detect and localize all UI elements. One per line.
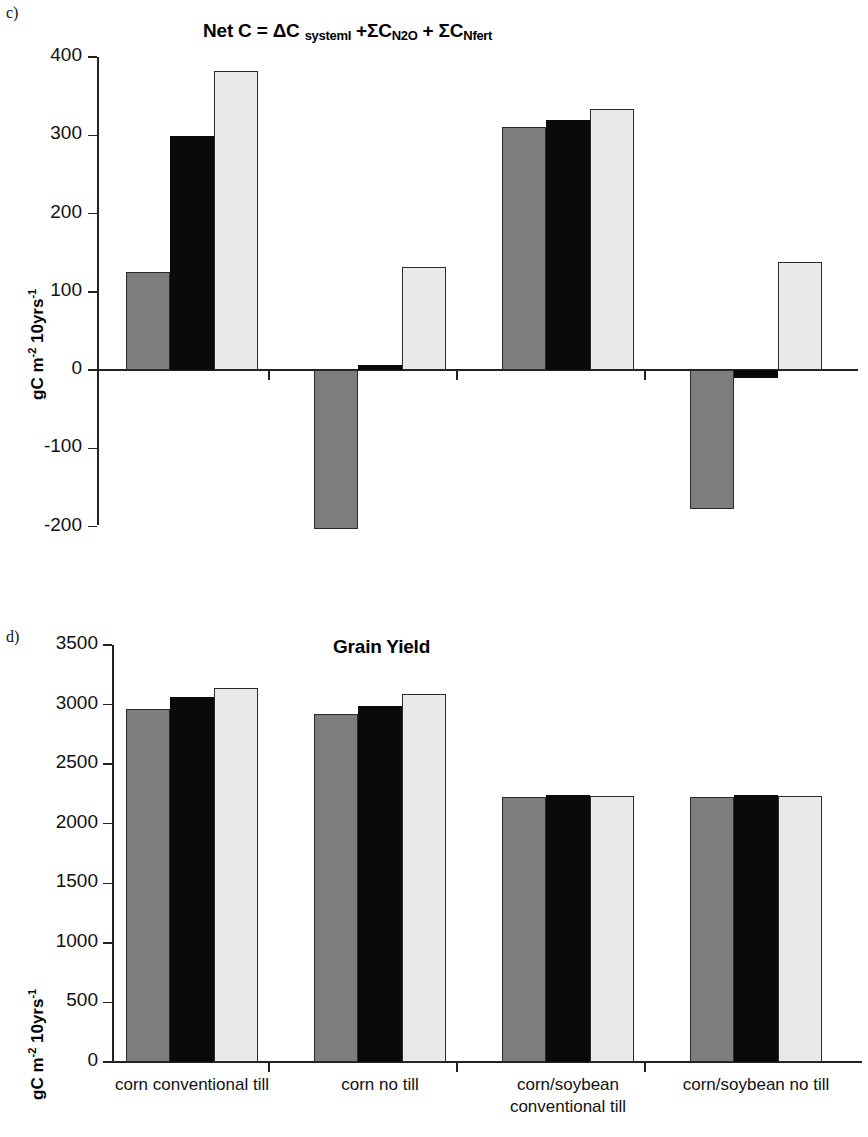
y-tick-label-d-0: 0: [10, 1049, 98, 1071]
x-axis-label-1: corn conventional till: [82, 1074, 302, 1096]
y-tick-label-d-3500: 3500: [10, 632, 98, 654]
y-tick-d-3500: [103, 644, 112, 646]
y-tick-d-500: [103, 1002, 112, 1004]
y-tick-d-0: [103, 1061, 112, 1063]
bar-c-g2-s3: [402, 267, 446, 370]
y-tick-label-c-200: 200: [2, 201, 82, 223]
y-tick-d-1500: [103, 883, 112, 885]
x-tick-d-0: [268, 1062, 270, 1072]
bar-d-g4-s1: [690, 797, 734, 1062]
panel-c-net-carbon: c) Net C = ΔCsystemI +ΣCN2O + ΣCNfert gC…: [0, 0, 868, 565]
y-tick-c-400: [88, 56, 97, 58]
y-tick-label-c--100: -100: [2, 435, 82, 457]
bar-c-g3-s3: [590, 109, 634, 370]
bar-d-g2-s3: [402, 694, 446, 1062]
chart-title-grain-yield: Grain Yield: [333, 636, 430, 658]
y-tick-c--200: [88, 526, 97, 528]
y-tick-c-0: [88, 369, 97, 371]
y-tick-label-d-2500: 2500: [10, 751, 98, 773]
y-tick-d-3000: [103, 704, 112, 706]
y-axis-title-c: gC m-2 10yrs-1: [28, 289, 48, 400]
bar-d-g4-s3: [778, 796, 822, 1062]
bar-d-g4-s2: [734, 795, 778, 1062]
y-tick-label-d-1500: 1500: [10, 870, 98, 892]
bar-d-g1-s3: [214, 688, 258, 1062]
x-tick-c-0: [268, 370, 270, 380]
bar-c-g3-s1: [502, 127, 546, 370]
bar-c-g2-s2: [358, 365, 402, 370]
y-tick-c--100: [88, 448, 97, 450]
bar-d-g3-s1: [502, 797, 546, 1062]
x-tick-c-2: [644, 370, 646, 380]
figure-root: c) Net C = ΔCsystemI +ΣCN2O + ΣCNfert gC…: [0, 0, 868, 1137]
y-tick-label-d-2000: 2000: [10, 811, 98, 833]
bar-d-g3-s2: [546, 795, 590, 1062]
bar-c-g3-s2: [546, 120, 590, 370]
chart-title-net-c: Net C = ΔCsystemI +ΣCN2O + ΣCNfert: [203, 20, 492, 42]
y-tick-label-c-300: 300: [2, 122, 82, 144]
y-tick-label-c-400: 400: [2, 44, 82, 66]
y-axis-line-c: [97, 57, 99, 525]
y-axis-line-d: [112, 645, 114, 1062]
bar-c-g2-s1: [314, 370, 358, 529]
y-tick-d-2000: [103, 823, 112, 825]
bar-d-g2-s1: [314, 714, 358, 1062]
y-tick-label-c-0: 0: [2, 357, 82, 379]
y-tick-label-d-500: 500: [10, 989, 98, 1011]
x-axis-label-2: corn no till: [270, 1074, 490, 1096]
bar-c-g1-s3: [214, 71, 258, 370]
y-tick-label-d-1000: 1000: [10, 930, 98, 952]
bar-c-g1-s1: [126, 272, 170, 370]
y-tick-label-c-100: 100: [2, 279, 82, 301]
y-tick-d-2500: [103, 763, 112, 765]
x-axis-label-3: corn/soybean conventional till: [458, 1074, 678, 1118]
y-tick-c-200: [88, 213, 97, 215]
bar-c-g4-s3: [778, 262, 822, 370]
bar-d-g1-s1: [126, 709, 170, 1062]
bar-d-g3-s3: [590, 796, 634, 1062]
panel-d-grain-yield: d) Grain Yield gC m-2 10yrs-1 3500300025…: [0, 600, 868, 1137]
bar-d-g2-s2: [358, 706, 402, 1062]
y-tick-c-300: [88, 135, 97, 137]
y-tick-d-1000: [103, 942, 112, 944]
x-tick-c-1: [456, 370, 458, 380]
y-tick-c-100: [88, 291, 97, 293]
y-tick-label-c--200: -200: [2, 514, 82, 536]
x-tick-d-2: [644, 1062, 646, 1072]
x-axis-label-4: corn/soybean no till: [646, 1074, 866, 1096]
y-tick-label-d-3000: 3000: [10, 692, 98, 714]
bar-c-g4-s2: [734, 370, 778, 378]
x-tick-d-1: [456, 1062, 458, 1072]
bar-c-g1-s2: [170, 136, 214, 370]
panel-letter-c: c): [6, 4, 18, 22]
bar-c-g4-s1: [690, 370, 734, 509]
bar-d-g1-s2: [170, 697, 214, 1062]
